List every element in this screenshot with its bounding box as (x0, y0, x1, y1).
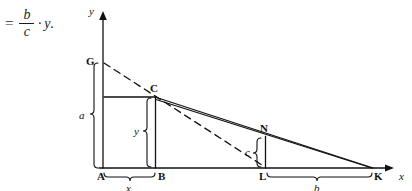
x-axis-arrowhead (385, 164, 394, 171)
point-label-C: C (150, 83, 158, 94)
axis-label-y: y (89, 6, 94, 17)
brace-c (253, 138, 261, 167)
brace-b (267, 173, 372, 181)
point-label-A: A (97, 171, 105, 182)
brace-label-c: c (245, 147, 250, 158)
point-label-L: L (259, 171, 267, 182)
point-label-N: N (260, 123, 268, 134)
segment-G-to-L-dashed (104, 63, 265, 167)
diagram-canvas (0, 0, 412, 191)
brace-x (104, 173, 155, 181)
point-label-K: K (374, 171, 383, 182)
point-label-B: B (158, 171, 166, 182)
brace-label-b: b (314, 183, 320, 191)
brace-a (90, 63, 98, 168)
axis-label-x: x (399, 171, 404, 182)
y-axis-arrowhead (99, 11, 107, 20)
brace-label-y: y (134, 126, 139, 137)
brace-label-a: a (79, 110, 85, 121)
brace-label-x: x (126, 183, 131, 191)
brace-y (143, 98, 151, 167)
figure-root: = b c · y . (0, 0, 412, 191)
point-label-G: G (86, 56, 95, 67)
